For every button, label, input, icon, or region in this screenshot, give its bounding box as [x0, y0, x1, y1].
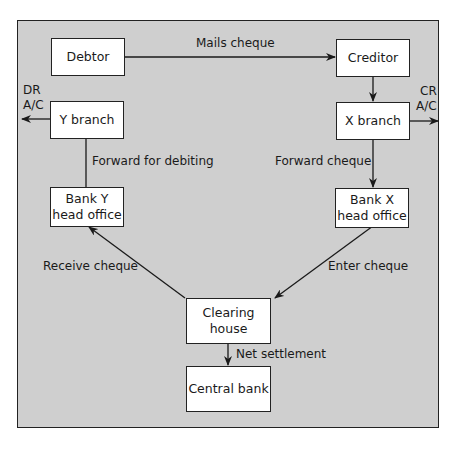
- node-x-branch: X branch: [336, 102, 410, 140]
- edge-label-forward-cheque: Forward cheque: [275, 154, 371, 169]
- node-label: Creditor: [348, 50, 398, 66]
- side-label-line2: A/C: [416, 99, 437, 114]
- node-label: Debtor: [67, 49, 110, 65]
- node-bank-x-head-office: Bank X head office: [335, 188, 409, 228]
- node-central-bank: Central bank: [186, 366, 271, 412]
- side-label-line1: DR: [23, 83, 44, 98]
- side-label-line1: CR: [416, 84, 437, 99]
- node-label: Y branch: [59, 112, 114, 128]
- edge-label-net-settlement: Net settlement: [236, 347, 326, 362]
- side-label-cr-ac: CR A/C: [416, 84, 437, 114]
- edge-label-mails-cheque: Mails cheque: [196, 36, 275, 51]
- edge-label-receive-cheque: Receive cheque: [43, 259, 138, 274]
- node-label-line1: Bank X: [350, 192, 394, 208]
- node-creditor: Creditor: [336, 39, 410, 77]
- side-label-line2: A/C: [23, 98, 44, 113]
- node-label: Central bank: [188, 381, 268, 397]
- node-label-line2: head office: [337, 208, 406, 224]
- node-debtor: Debtor: [51, 38, 125, 76]
- node-label: X branch: [345, 113, 401, 129]
- node-label-line2: house: [210, 321, 248, 337]
- node-label-line2: head office: [52, 207, 121, 223]
- node-clearing-house: Clearing house: [186, 298, 271, 344]
- edge-label-forward-for-debiting: Forward for debiting: [92, 154, 214, 169]
- node-y-branch: Y branch: [50, 101, 124, 139]
- node-label-line1: Bank Y: [65, 191, 108, 207]
- edge-label-enter-cheque: Enter cheque: [328, 259, 408, 274]
- node-label-line1: Clearing: [202, 305, 254, 321]
- node-bank-y-head-office: Bank Y head office: [50, 187, 124, 227]
- side-label-dr-ac: DR A/C: [23, 83, 44, 113]
